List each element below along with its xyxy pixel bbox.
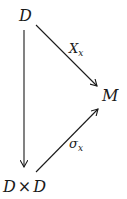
product-operator: × [16,177,33,196]
arrow-bottom-to-right [36,109,98,172]
arrow-top-to-right [36,25,97,86]
arrow-label-x-sub: x [78,48,83,58]
node-right-label: M [102,86,118,105]
arrow-label-sigma: σx [69,137,83,150]
arrow-label-x: Xx [69,42,83,55]
node-right-m: M [102,88,118,104]
node-bottom-product: D×D [3,179,46,195]
node-bottom-right-factor: D [33,177,46,196]
node-bottom-left-factor: D [3,177,16,196]
commutative-diagram: D M D×D Xx σx [0,0,127,199]
node-top-label: D [19,6,32,25]
arrow-label-sigma-main: σ [69,136,78,151]
arrow-label-sigma-sub: x [78,143,83,153]
arrow-label-x-main: X [69,41,78,56]
node-top-d: D [19,8,32,24]
